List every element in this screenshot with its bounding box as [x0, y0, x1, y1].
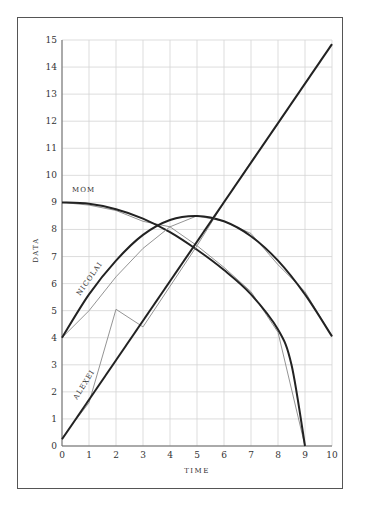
- y-tick-label: 10: [46, 170, 58, 180]
- x-tick-label: 2: [113, 450, 119, 460]
- x-tick-label: 0: [59, 450, 65, 460]
- y-tick-labels: 0123456789101112131415: [46, 35, 58, 451]
- x-tick-label: 9: [302, 450, 308, 460]
- y-tick-label: 8: [51, 224, 57, 234]
- y-tick-label: 7: [51, 252, 57, 262]
- x-tick-label: 1: [86, 450, 92, 460]
- y-tick-label: 13: [46, 89, 58, 99]
- y-tick-label: 6: [51, 279, 57, 289]
- x-tick-label: 6: [221, 450, 227, 460]
- y-tick-label: 5: [51, 306, 57, 316]
- series-label-mom: MOM: [72, 186, 95, 194]
- y-tick-label: 1: [51, 414, 57, 424]
- y-tick-label: 4: [51, 333, 57, 343]
- x-tick-label: 10: [326, 450, 338, 460]
- x-tick-labels: 012345678910: [59, 450, 338, 460]
- y-tick-label: 2: [51, 387, 57, 397]
- x-tick-label: 5: [194, 450, 200, 460]
- x-tick-label: 8: [275, 450, 281, 460]
- y-tick-label: 14: [46, 62, 58, 72]
- series-raw-mom: [62, 202, 305, 446]
- x-tick-label: 4: [167, 450, 173, 460]
- x-tick-label: 3: [140, 450, 146, 460]
- y-tick-label: 0: [51, 441, 57, 451]
- y-axis-title: DATA: [32, 237, 40, 263]
- y-tick-label: 15: [46, 35, 58, 45]
- y-tick-label: 11: [46, 143, 57, 153]
- series-fit-mom: [62, 202, 305, 446]
- x-axis-title: TIME: [184, 467, 210, 475]
- y-tick-label: 9: [51, 197, 57, 207]
- line-chart: 012345678910 0123456789101112131415 TIME…: [0, 0, 375, 507]
- x-tick-label: 7: [248, 450, 254, 460]
- series-label-alexei: ALEXEI: [71, 368, 96, 402]
- y-tick-label: 12: [46, 116, 57, 126]
- y-tick-label: 3: [51, 360, 57, 370]
